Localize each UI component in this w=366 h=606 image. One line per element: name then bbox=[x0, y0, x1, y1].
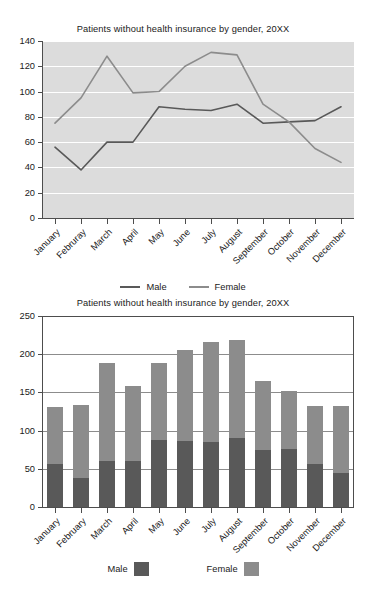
x-axis-tick-mark bbox=[211, 508, 212, 513]
x-axis-tick-mark bbox=[211, 219, 212, 224]
x-axis-tick-mark bbox=[185, 508, 186, 513]
bar-group bbox=[333, 316, 349, 507]
x-axis-tick-mark bbox=[289, 219, 290, 224]
legend-line-swatch bbox=[189, 286, 209, 288]
y-axis-tick-label: 80 bbox=[0, 112, 35, 122]
bar-segment-female bbox=[333, 406, 349, 472]
bar-segment-male bbox=[255, 450, 271, 507]
y-axis-tick-label: 200 bbox=[0, 349, 35, 359]
bar-chart-plot-area bbox=[42, 316, 354, 507]
x-axis-tick-mark bbox=[237, 508, 238, 513]
legend-item-female: Female bbox=[207, 562, 259, 576]
x-axis-tick-mark bbox=[159, 219, 160, 224]
legend-label: Female bbox=[207, 564, 238, 574]
x-axis-tick-mark bbox=[81, 508, 82, 513]
bar-segment-male bbox=[151, 440, 167, 507]
bar-group bbox=[125, 316, 141, 507]
bar-segment-female bbox=[203, 342, 219, 442]
x-axis-tick-mark bbox=[55, 508, 56, 513]
x-axis-tick-mark bbox=[237, 219, 238, 224]
bar-segment-male bbox=[281, 449, 297, 507]
y-axis-tick-label: 60 bbox=[0, 137, 35, 147]
plot-border-right bbox=[353, 316, 354, 507]
x-axis-tick-mark bbox=[315, 508, 316, 513]
legend-color-swatch bbox=[134, 562, 149, 576]
bar-segment-female bbox=[73, 405, 89, 478]
y-axis-tick-label: 150 bbox=[0, 387, 35, 397]
y-axis-tick-label: 20 bbox=[0, 188, 35, 198]
bar-segment-female bbox=[99, 363, 115, 461]
y-axis-line bbox=[42, 316, 43, 508]
y-axis-tick-label: 0 bbox=[0, 502, 35, 512]
x-axis-tick-mark bbox=[55, 219, 56, 224]
x-axis-tick-mark bbox=[263, 219, 264, 224]
x-axis-tick-mark bbox=[81, 219, 82, 224]
x-axis-line bbox=[42, 507, 354, 508]
bar-segment-male bbox=[47, 464, 63, 507]
bar-group bbox=[281, 316, 297, 507]
y-axis-tick-label: 100 bbox=[0, 87, 35, 97]
line-series-group bbox=[42, 41, 354, 218]
bar-segment-male bbox=[203, 442, 219, 507]
bar-group bbox=[255, 316, 271, 507]
bar-group bbox=[99, 316, 115, 507]
bar-group bbox=[177, 316, 193, 507]
line-chart: Patients without health insurance by gen… bbox=[0, 0, 366, 300]
bar-segment-female bbox=[229, 340, 245, 439]
x-axis-tick-mark bbox=[159, 508, 160, 513]
x-axis-tick-mark bbox=[263, 508, 264, 513]
bar-segment-female bbox=[47, 407, 63, 464]
legend-label: Male bbox=[107, 564, 127, 574]
line-series-male bbox=[55, 104, 341, 170]
x-axis-tick-mark bbox=[107, 508, 108, 513]
bar-chart: Patients without health insurance by gen… bbox=[0, 290, 366, 606]
y-axis-line bbox=[42, 41, 43, 219]
bar-segment-male bbox=[229, 438, 245, 507]
bar-segment-female bbox=[125, 386, 141, 462]
bar-segment-male bbox=[125, 461, 141, 507]
x-axis-tick-mark bbox=[107, 219, 108, 224]
bar-segment-female bbox=[151, 363, 167, 439]
bar-segment-female bbox=[177, 350, 193, 442]
legend-item-male: Male bbox=[107, 562, 148, 576]
line-chart-plot-area bbox=[42, 41, 354, 218]
bar-segment-male bbox=[177, 441, 193, 507]
y-axis-tick-label: 50 bbox=[0, 464, 35, 474]
x-axis-tick-mark bbox=[133, 508, 134, 513]
x-axis-line bbox=[42, 218, 354, 219]
bar-group bbox=[47, 316, 63, 507]
bar-group bbox=[73, 316, 89, 507]
y-axis-tick-label: 100 bbox=[0, 426, 35, 436]
bar-group bbox=[151, 316, 167, 507]
x-axis-tick-mark bbox=[341, 508, 342, 513]
bar-group bbox=[307, 316, 323, 507]
bar-group bbox=[203, 316, 219, 507]
x-axis-tick-mark bbox=[341, 219, 342, 224]
y-axis-tick-label: 250 bbox=[0, 311, 35, 321]
bar-chart-legend: MaleFemale bbox=[0, 560, 366, 578]
x-axis-tick-mark bbox=[185, 219, 186, 224]
bar-segment-female bbox=[255, 381, 271, 450]
bar-group bbox=[229, 316, 245, 507]
bar-segment-male bbox=[333, 473, 349, 507]
bar-segment-female bbox=[307, 406, 323, 464]
legend-line-swatch bbox=[120, 286, 140, 288]
y-axis-tick-label: 0 bbox=[0, 213, 35, 223]
x-axis-tick-mark bbox=[133, 219, 134, 224]
bar-segment-male bbox=[73, 478, 89, 507]
bar-segment-male bbox=[307, 464, 323, 507]
bar-segment-male bbox=[99, 461, 115, 507]
x-axis-tick-mark bbox=[315, 219, 316, 224]
charts-page: Patients without health insurance by gen… bbox=[0, 0, 366, 606]
bar-chart-title: Patients without health insurance by gen… bbox=[0, 298, 366, 308]
y-axis-tick-label: 40 bbox=[0, 162, 35, 172]
y-axis-tick-label: 120 bbox=[0, 61, 35, 71]
line-chart-title: Patients without health insurance by gen… bbox=[0, 24, 366, 34]
legend-color-swatch bbox=[244, 562, 259, 576]
bar-segment-female bbox=[281, 391, 297, 449]
y-axis-tick-label: 140 bbox=[0, 36, 35, 46]
x-axis-tick-mark bbox=[289, 508, 290, 513]
line-series-female bbox=[55, 52, 341, 162]
